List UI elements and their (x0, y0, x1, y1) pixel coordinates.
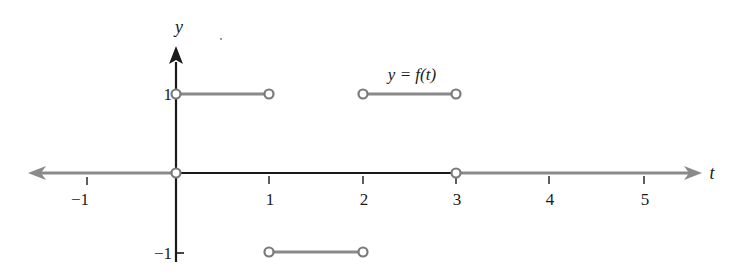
dot-artifact (220, 38, 222, 40)
open-point-icon (452, 90, 461, 99)
y-tick-label: −1 (154, 244, 172, 263)
y-axis (169, 46, 184, 262)
x-tick-label: −1 (71, 190, 89, 209)
y-axis-up-arrow-icon (169, 46, 183, 64)
x-tick-label: 4 (546, 190, 555, 209)
t-axis (28, 166, 702, 180)
open-point-icon (265, 90, 274, 99)
open-point-icon (265, 248, 274, 257)
y-axis-label: y (173, 17, 183, 37)
t-axis-ticks (87, 176, 644, 185)
open-point-icon (359, 248, 368, 257)
open-point-icon (452, 169, 461, 178)
step-function-graph: −1 1 2 3 4 5 1 −1 y t y = f(t) (0, 0, 741, 276)
open-point-icon (172, 90, 181, 99)
function-label: y = f(t) (386, 65, 437, 84)
x-tick-label: 5 (641, 190, 650, 209)
x-tick-label: 3 (453, 190, 462, 209)
open-point-icon (359, 90, 368, 99)
x-tick-label: 2 (360, 190, 369, 209)
x-tick-label: 1 (266, 190, 275, 209)
t-axis-label: t (709, 163, 715, 183)
open-point-icon (172, 169, 181, 178)
